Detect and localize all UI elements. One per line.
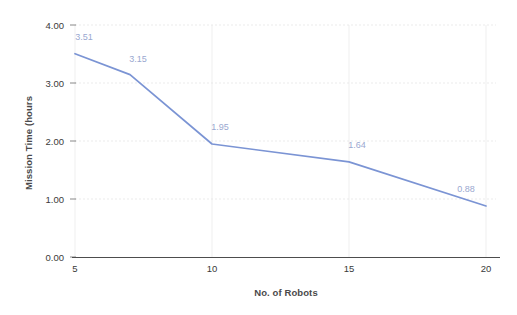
xtick-label-10: 10 (207, 263, 218, 274)
data-label-1: 3.15 (129, 54, 147, 64)
xtick-label-20: 20 (481, 263, 492, 274)
ytick-label-0: 0.00 (46, 252, 65, 263)
ytick-label-1: 1.00 (46, 194, 65, 205)
xtick-label-15: 15 (344, 263, 355, 274)
x-axis-title: No. of Robots (254, 287, 318, 298)
xtick-label-5: 5 (72, 263, 77, 274)
ytick-label-2: 2.00 (46, 136, 65, 147)
data-label-3: 1.64 (348, 140, 366, 150)
chart-container: 4.00 3.00 2.00 1.00 0.00 5 10 15 20 3.51… (0, 0, 517, 315)
ytick-label-4: 4.00 (46, 20, 65, 31)
y-axis-title: Mission Time (hours (23, 96, 34, 190)
data-label-2: 1.95 (211, 122, 229, 132)
data-label-4: 0.88 (457, 184, 475, 194)
data-label-0: 3.51 (75, 32, 93, 42)
line-chart: 4.00 3.00 2.00 1.00 0.00 5 10 15 20 3.51… (0, 0, 517, 315)
ytick-label-3: 3.00 (46, 78, 65, 89)
